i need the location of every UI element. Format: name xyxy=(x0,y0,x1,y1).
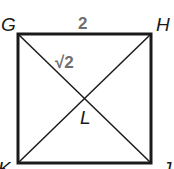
vertex-label-H: H xyxy=(156,14,170,35)
square-diagram: G H K J L 2 √2 xyxy=(0,0,174,169)
vertex-label-G: G xyxy=(1,14,16,35)
half-diagonal-label: √2 xyxy=(55,53,74,72)
side-length-label: 2 xyxy=(78,14,87,33)
vertex-label-K: K xyxy=(0,158,12,169)
vertex-label-J: J xyxy=(161,158,172,169)
center-label-L: L xyxy=(80,107,91,128)
